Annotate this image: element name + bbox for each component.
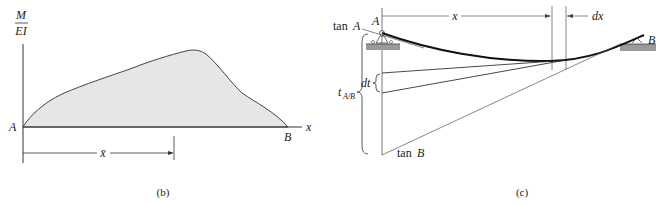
dt-label: dt — [361, 76, 371, 90]
point-b-label: B — [284, 130, 292, 144]
dim-dx-label: dx — [592, 9, 604, 23]
tan-a-var: A — [352, 19, 361, 33]
point-b-label: B — [648, 33, 656, 47]
t-ab-brace — [357, 34, 368, 154]
moment-area-curve — [23, 50, 288, 127]
moment-diagram-figure: M EI x A B x̄ (b) — [8, 8, 312, 199]
point-a-label: A — [8, 120, 17, 134]
t-ab-label: t — [338, 85, 342, 99]
arrow-left-icon — [567, 14, 573, 18]
y-axis-label-m: M — [15, 8, 27, 22]
y-axis-label-ei: EI — [14, 24, 27, 38]
caption-c: (c) — [516, 186, 529, 199]
elastic-curve-figure: x dx A tan A B — [333, 6, 656, 199]
centroid-label: x̄ — [99, 146, 106, 160]
x-axis-label: x — [305, 120, 312, 134]
tan-a-prefix: tan — [333, 19, 348, 33]
point-a-label: A — [371, 14, 380, 28]
dim-x-label: x — [451, 9, 458, 23]
arrow-right-icon — [545, 14, 551, 18]
tan-b-var: B — [417, 146, 425, 160]
beam-deflection-figures: M EI x A B x̄ (b) x dx — [0, 0, 660, 204]
arrow-right-icon — [168, 151, 174, 155]
tangent-dx-line — [382, 60, 566, 93]
tan-b-prefix: tan — [397, 146, 412, 160]
t-ab-subscript: A/B — [342, 92, 355, 101]
ground-hatch — [366, 44, 400, 50]
caption-b: (b) — [157, 186, 170, 199]
dt-brace — [373, 74, 380, 92]
tangent-b-line — [382, 44, 620, 155]
